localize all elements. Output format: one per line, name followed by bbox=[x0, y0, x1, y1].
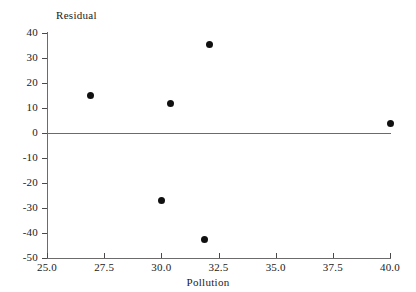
y-tick-mark bbox=[42, 58, 47, 59]
x-tick-mark bbox=[47, 253, 48, 258]
y-tick-label: 30 bbox=[27, 52, 38, 63]
x-tick-label: 35.0 bbox=[266, 262, 286, 273]
x-tick-mark bbox=[276, 253, 277, 258]
y-tick-mark bbox=[42, 133, 47, 134]
data-point bbox=[206, 41, 213, 48]
x-tick-mark bbox=[390, 253, 391, 258]
x-tick-label: 30.0 bbox=[151, 262, 171, 273]
y-axis-title: Residual bbox=[56, 9, 97, 21]
data-point bbox=[167, 100, 174, 107]
y-tick-label: -20 bbox=[23, 177, 38, 188]
y-tick-mark bbox=[42, 158, 47, 159]
y-tick-label: 10 bbox=[27, 102, 38, 113]
x-axis-line bbox=[47, 258, 391, 259]
x-tick-label: 37.5 bbox=[323, 262, 343, 273]
y-tick-label: 0 bbox=[32, 127, 38, 138]
y-tick-mark bbox=[42, 83, 47, 84]
x-tick-mark bbox=[104, 253, 105, 258]
x-tick-mark bbox=[333, 253, 334, 258]
y-tick-mark bbox=[42, 108, 47, 109]
data-point bbox=[387, 120, 394, 127]
y-tick-mark bbox=[42, 183, 47, 184]
residual-plot: Residual 403020100-10-20-30-40-50 25.027… bbox=[0, 0, 416, 292]
x-tick-mark bbox=[161, 253, 162, 258]
y-tick-mark bbox=[42, 233, 47, 234]
y-tick-mark bbox=[42, 33, 47, 34]
y-tick-mark bbox=[42, 208, 47, 209]
y-tick-label: 20 bbox=[27, 77, 38, 88]
x-tick-mark bbox=[219, 253, 220, 258]
y-tick-mark bbox=[42, 258, 47, 259]
data-point bbox=[201, 236, 208, 243]
y-tick-label: 40 bbox=[27, 27, 38, 38]
y-axis-line bbox=[47, 32, 48, 259]
y-tick-label: -30 bbox=[23, 202, 38, 213]
y-tick-label: -50 bbox=[23, 252, 38, 263]
data-point bbox=[87, 92, 94, 99]
y-tick-label: -40 bbox=[23, 227, 38, 238]
y-tick-label: -10 bbox=[23, 152, 38, 163]
data-point bbox=[158, 197, 165, 204]
zero-reference-line bbox=[47, 133, 391, 134]
x-tick-label: 27.5 bbox=[94, 262, 114, 273]
x-tick-label: 32.5 bbox=[208, 262, 228, 273]
x-axis-title: Pollution bbox=[0, 276, 416, 288]
x-tick-label: 40.0 bbox=[380, 262, 400, 273]
x-tick-label: 25.0 bbox=[37, 262, 57, 273]
